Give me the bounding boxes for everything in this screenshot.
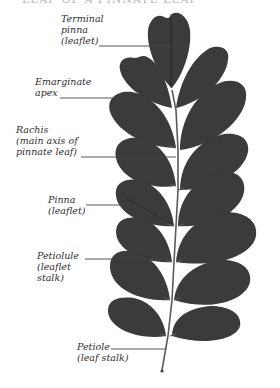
petiole-base — [160, 369, 163, 372]
label-rachis: Rachis (main axis of pinnate leaf) — [16, 124, 78, 157]
label-pinna: Pinna (leaflet) — [48, 194, 86, 216]
leaflet-right-7 — [172, 306, 240, 341]
leaflet-right-6 — [174, 260, 250, 305]
label-petiole: Petiole (leaf stalk) — [77, 341, 128, 363]
label-petiolule: Petiolule (leaflet stalk) — [37, 250, 79, 283]
pinnate-leaf-diagram: LEAF OF A PINNATE LEAF — [0, 0, 280, 388]
label-emarginate-apex: Emarginate apex — [35, 76, 92, 98]
leaflet-left-7 — [108, 298, 166, 337]
leaf-illustration — [0, 0, 280, 388]
label-terminal-pinna: Terminal pinna (leaflet) — [61, 13, 104, 46]
